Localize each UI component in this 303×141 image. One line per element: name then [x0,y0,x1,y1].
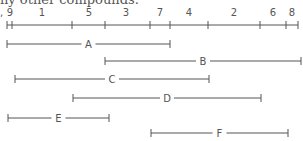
axis-tick-label: 9 [7,7,13,18]
segment-label: E [55,113,61,124]
segment-label: D [163,93,171,104]
axis-tick-label: 1 [39,7,45,18]
segment-label: A [85,39,92,50]
axis-tick-label: 7 [157,7,163,18]
segment-label: C [109,74,116,85]
axis-tick-label: 4 [186,7,192,18]
axis-prefix: , [0,7,3,18]
segment-label: F [217,128,223,139]
axis-tick-label: 8 [289,7,295,18]
axis-tick-label: 3 [123,7,129,18]
axis-tick-label: 5 [86,7,92,18]
axis-tick-label: 2 [231,7,237,18]
interval-diagram: ,915374268ABCDEF [0,0,303,141]
segment-label: B [200,56,207,67]
axis-tick-label: 6 [270,7,276,18]
